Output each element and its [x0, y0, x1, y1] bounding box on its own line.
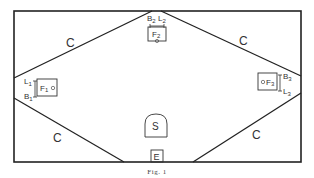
f1-label: F1: [40, 84, 49, 93]
right-b-label: B3: [283, 72, 292, 82]
line-bottom-left: [14, 98, 124, 162]
top-l-label: L2: [158, 14, 166, 24]
line-bottom-right: [193, 93, 301, 162]
figure-caption: Fig. 1: [147, 168, 166, 176]
region-label-c: C: [53, 131, 62, 145]
line-top-left: [14, 11, 152, 78]
left-unit: L1 B1 F1: [24, 77, 57, 102]
f3-marker-icon: [261, 80, 264, 83]
line-top-right: [161, 11, 301, 76]
top-b-label: B2: [147, 14, 156, 24]
figure-diagram: C C C C B2 L2 F2 L1 B1 F1 F3 B3 L3 S: [0, 0, 314, 178]
right-unit: F3 B3 L3: [258, 72, 292, 97]
region-label-c: C: [252, 128, 261, 142]
f1-marker-icon: [51, 86, 54, 89]
center-label: S: [152, 121, 159, 132]
left-b-label: B1: [24, 92, 33, 102]
f2-label: F2: [152, 30, 161, 39]
entrance-label: E: [154, 152, 160, 162]
region-label-c: C: [66, 36, 75, 50]
top-unit: B2 L2 F2: [147, 14, 166, 43]
left-l-label: L1: [24, 77, 32, 87]
region-label-c: C: [239, 34, 248, 48]
f3-label: F3: [266, 78, 275, 87]
right-l-label: L3: [283, 87, 291, 97]
